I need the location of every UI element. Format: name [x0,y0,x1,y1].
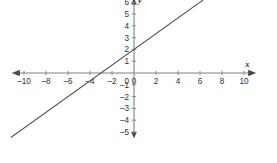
x-axis-tick-label: –6 [63,77,73,86]
x-axis-tick-label: 4 [176,77,181,86]
y-axis-tick-label: 1 [124,57,129,66]
y-axis-tick-label: 6 [124,0,129,7]
y-axis-tick-label: –4 [120,116,130,125]
y-axis-name-label: y [137,0,142,5]
y-axis-tick-label: 4 [124,22,129,31]
plotted-line [11,0,207,138]
x-axis-tick-label: –2 [107,77,117,86]
x-axis-left-arrow-icon [12,70,20,76]
x-axis-tick-label: –10 [17,77,31,86]
x-axis-tick-label: 6 [198,77,203,86]
y-axis-bottom-arrow-icon [131,132,137,139]
x-axis-tick-label: 10 [239,77,249,86]
x-axis-tick-label: 8 [220,77,225,86]
y-axis-tick-label: 5 [124,10,129,19]
x-axis-right-arrow-icon [248,70,256,76]
coordinate-plane-graph: –10–8–6–4–20246810–5–4–3–2–11234560xy [0,0,277,163]
origin-tick-label: 0 [124,77,129,86]
y-axis-tick-label: 3 [124,34,129,43]
y-axis-tick-label: –2 [120,93,130,102]
x-axis-tick-label: 2 [154,77,159,86]
x-axis-name-label: x [244,59,250,69]
graph-canvas: –10–8–6–4–20246810–5–4–3–2–11234560xy [0,0,277,163]
y-axis-tick-label: –3 [120,104,130,113]
y-axis-tick-label: –5 [120,128,130,137]
x-axis-tick-label: –8 [41,77,51,86]
